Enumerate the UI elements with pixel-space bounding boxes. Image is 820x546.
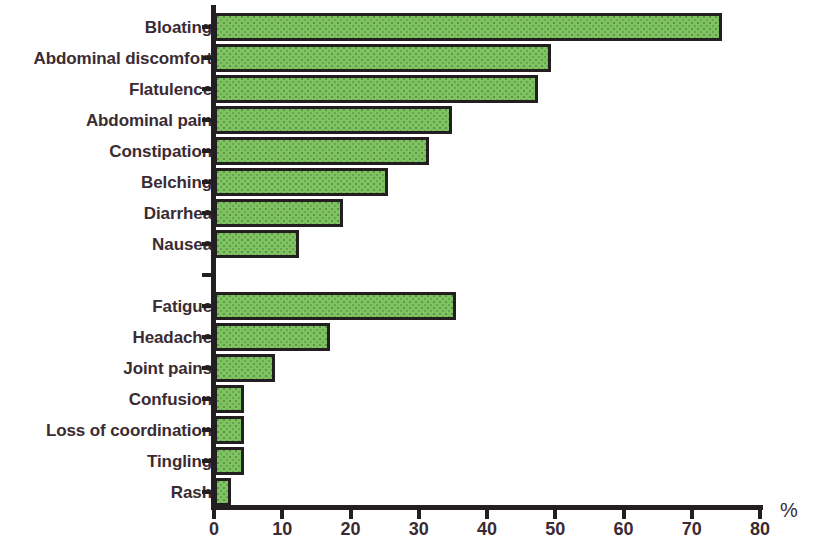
bar-row: Bloating (0, 11, 820, 42)
bar (214, 106, 452, 134)
group-separator-tick (202, 273, 212, 277)
category-label: Loss of coordination (46, 421, 212, 438)
x-axis-tick-label: 40 (477, 520, 497, 538)
category-tick (202, 304, 212, 308)
bar (214, 292, 456, 320)
bar-row: Constipation (0, 135, 820, 166)
bar (214, 44, 551, 72)
x-axis-tick (280, 508, 284, 519)
category-tick (202, 397, 212, 401)
bar-row: Belching (0, 166, 820, 197)
bar-row: Tingling (0, 445, 820, 476)
category-tick (202, 180, 212, 184)
category-label: Confusion (129, 390, 212, 407)
x-axis-tick (485, 508, 489, 519)
category-tick (202, 149, 212, 153)
bar-row: Abdominal discomfort (0, 42, 820, 73)
category-label: Joint pains (123, 359, 212, 376)
bar (214, 137, 429, 165)
category-label: Flatulence (129, 80, 212, 97)
bar (214, 13, 722, 41)
bar-row: Nausea (0, 228, 820, 259)
category-tick (202, 118, 212, 122)
category-label: Abdominal pain (86, 111, 212, 128)
bar (214, 168, 388, 196)
category-tick (202, 242, 212, 246)
category-tick (202, 428, 212, 432)
bar (214, 478, 231, 506)
bar (214, 199, 343, 227)
bar-row: Fatigue (0, 290, 820, 321)
x-axis-tick-label: 50 (545, 520, 565, 538)
bar (214, 385, 244, 413)
bar (214, 323, 330, 351)
x-axis-tick-label: 30 (409, 520, 429, 538)
bar-row: Rash (0, 476, 820, 507)
bar (214, 75, 538, 103)
plot-area: BloatingAbdominal discomfortFlatulenceAb… (0, 0, 820, 546)
bar (214, 230, 299, 258)
x-axis-tick-label: 20 (340, 520, 360, 538)
category-tick (202, 56, 212, 60)
category-label: Abdominal discomfort (34, 49, 212, 66)
bar (214, 416, 244, 444)
bar-row: Flatulence (0, 73, 820, 104)
x-axis-tick (622, 508, 626, 519)
x-axis-tick (212, 508, 216, 519)
bar-row: Confusion (0, 383, 820, 414)
x-axis-tick (417, 508, 421, 519)
x-axis-tick-label: 60 (613, 520, 633, 538)
x-axis-tick (349, 508, 353, 519)
x-axis-tick (553, 508, 557, 519)
bar-row: Diarrhea (0, 197, 820, 228)
x-axis-tick-label: 80 (750, 520, 770, 538)
bar-chart: BloatingAbdominal discomfortFlatulenceAb… (0, 0, 820, 546)
category-label: Headache (132, 328, 212, 345)
x-axis-tick-label: 70 (682, 520, 702, 538)
category-tick (202, 366, 212, 370)
x-axis-unit-label: % (780, 500, 798, 520)
category-tick (202, 335, 212, 339)
bar-row: Loss of coordination (0, 414, 820, 445)
x-axis-tick-label: 10 (272, 520, 292, 538)
bar-row: Headache (0, 321, 820, 352)
category-tick (202, 211, 212, 215)
bar (214, 447, 244, 475)
category-label: Constipation (109, 142, 212, 159)
bar-row: Joint pains (0, 352, 820, 383)
category-tick (202, 25, 212, 29)
x-axis-tick (758, 508, 762, 519)
category-tick (202, 490, 212, 494)
bar-row: Abdominal pain (0, 104, 820, 135)
group-separator-row (0, 259, 820, 290)
x-axis-tick-label: 0 (209, 520, 219, 538)
x-axis-tick (690, 508, 694, 519)
category-tick (202, 87, 212, 91)
category-tick (202, 459, 212, 463)
bar (214, 354, 275, 382)
